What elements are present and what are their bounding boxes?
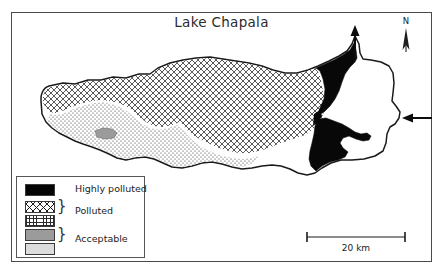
inflow-arrow xyxy=(402,114,432,123)
legend-swatch-polluted-dots xyxy=(25,215,55,227)
legend-swatch-acceptable-medium xyxy=(25,229,55,241)
north-arrow-icon xyxy=(403,28,410,52)
legend-brace-acceptable: } xyxy=(57,227,69,242)
legend-label-highly-polluted: Highly polluted xyxy=(75,183,147,194)
legend-label-polluted: Polluted xyxy=(75,205,113,216)
legend-brace-polluted: } xyxy=(57,199,69,214)
legend-swatch-polluted-crosshatch xyxy=(25,201,55,213)
scale-bar-label: 20 km xyxy=(300,243,412,253)
scale-bar xyxy=(307,232,405,242)
lake-chapala-map: Lake Chapala N Highly polluted } Pollute… xyxy=(0,0,443,275)
legend-swatch-highly-polluted xyxy=(25,184,55,196)
lake-body xyxy=(41,36,400,175)
north-arrow-label: N xyxy=(398,16,414,26)
legend-swatch-acceptable-light xyxy=(25,243,55,255)
page-title: Lake Chapala xyxy=(0,14,443,30)
legend: Highly polluted } Polluted } Acceptable xyxy=(16,176,145,258)
legend-label-acceptable: Acceptable xyxy=(75,233,128,244)
